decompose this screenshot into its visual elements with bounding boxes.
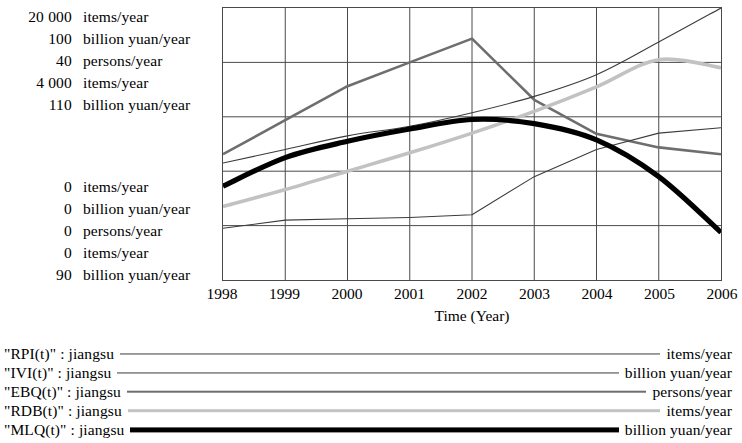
y-axis-scale-row: 0 items/year xyxy=(0,176,212,198)
legend-swatch-track xyxy=(128,401,661,420)
chart-legend: "RPI(t)" : jiangsu items/year "IVI(t)" :… xyxy=(4,344,732,439)
x-axis-tick-2002: 2002 xyxy=(442,283,502,305)
y-axis-unit-label: persons/year xyxy=(72,220,163,242)
legend-swatch-track xyxy=(127,382,647,401)
legend-unit: items/year xyxy=(666,401,732,420)
legend-color-swatch-ivi xyxy=(117,372,618,373)
y-axis-scale-row: 4 000 items/year xyxy=(0,72,212,94)
y-axis-max-value: 20 000 xyxy=(0,6,72,28)
y-axis-max-value: 110 xyxy=(0,94,72,116)
x-axis-tick-2003: 2003 xyxy=(505,283,565,305)
x-axis-tick-2004: 2004 xyxy=(567,283,627,305)
legend-label: "MLQ(t)" : jiangsu xyxy=(4,420,124,439)
y-axis-unit-label: items/year xyxy=(72,176,149,198)
legend-label: "RPI(t)" : jiangsu xyxy=(4,344,114,363)
y-axis-min-value: 0 xyxy=(0,198,72,220)
y-axis-scale-row: 100 billion yuan/year xyxy=(0,28,212,50)
y-axis-unit-label: billion yuan/year xyxy=(72,28,190,50)
y-axis-unit-label: billion yuan/year xyxy=(72,264,190,286)
y-axis-scale-row: 110 billion yuan/year xyxy=(0,94,212,116)
y-axis-max-value: 100 xyxy=(0,28,72,50)
chart-plot-area xyxy=(222,7,722,281)
y-axis-scale-row: 40 persons/year xyxy=(0,50,212,72)
legend-swatch-track xyxy=(120,344,660,363)
y-axis-scale-row: 20 000 items/year xyxy=(0,6,212,28)
y-axis-unit-label: items/year xyxy=(72,72,149,94)
legend-item-ebq[interactable]: "EBQ(t)" : jiangsu persons/year xyxy=(4,382,732,401)
legend-item-mlq[interactable]: "MLQ(t)" : jiangsu billion yuan/year xyxy=(4,420,732,439)
legend-unit: billion yuan/year xyxy=(625,363,732,382)
legend-item-ivi[interactable]: "IVI(t)" : jiangsu billion yuan/year xyxy=(4,363,732,382)
legend-unit: billion yuan/year xyxy=(625,420,732,439)
legend-color-swatch-mlq xyxy=(130,427,618,432)
y-axis-unit-label: persons/year xyxy=(72,50,163,72)
x-axis-tick-2006: 2006 xyxy=(692,283,742,305)
legend-label: "IVI(t)" : jiangsu xyxy=(4,363,111,382)
y-axis-min-value: 0 xyxy=(0,220,72,242)
y-axis-scale-min-column: 0 items/year 0 billion yuan/year 0 perso… xyxy=(0,176,212,286)
y-axis-min-value: 90 xyxy=(0,264,72,286)
y-axis-unit-label: items/year xyxy=(72,242,149,264)
x-axis-tick-labels: 199819992000200120022003200420052006 xyxy=(222,283,722,305)
legend-unit: persons/year xyxy=(652,382,732,401)
y-axis-scale-max-column: 20 000 items/year 100 billion yuan/year … xyxy=(0,6,212,116)
legend-color-swatch-rdb xyxy=(128,409,661,413)
y-axis-min-value: 0 xyxy=(0,176,72,198)
legend-swatch-track xyxy=(130,420,618,439)
x-axis-tick-1998: 1998 xyxy=(192,283,252,305)
legend-label: "EBQ(t)" : jiangsu xyxy=(4,382,121,401)
x-axis-tick-2005: 2005 xyxy=(630,283,690,305)
y-axis-unit-label: items/year xyxy=(72,6,149,28)
y-axis-scale-row: 0 items/year xyxy=(0,242,212,264)
legend-swatch-track xyxy=(117,363,618,382)
y-axis-scale-row: 0 persons/year xyxy=(0,220,212,242)
y-axis-max-value: 4 000 xyxy=(0,72,72,94)
y-axis-max-value: 40 xyxy=(0,50,72,72)
legend-item-rdb[interactable]: "RDB(t)" : jiangsu items/year xyxy=(4,401,732,420)
y-axis-scale-row: 90 billion yuan/year xyxy=(0,264,212,286)
legend-color-swatch-ebq xyxy=(127,390,647,393)
legend-color-swatch-rpi xyxy=(120,353,660,354)
legend-unit: items/year xyxy=(666,344,732,363)
y-axis-unit-label: billion yuan/year xyxy=(72,198,190,220)
legend-item-rpi[interactable]: "RPI(t)" : jiangsu items/year xyxy=(4,344,732,363)
x-axis-tick-2000: 2000 xyxy=(317,283,377,305)
legend-label: "RDB(t)" : jiangsu xyxy=(4,401,122,420)
y-axis-min-value: 0 xyxy=(0,242,72,264)
y-axis-unit-label: billion yuan/year xyxy=(72,94,190,116)
x-axis-tick-1999: 1999 xyxy=(255,283,315,305)
x-axis-title: Time (Year) xyxy=(222,307,722,325)
x-axis-tick-2001: 2001 xyxy=(380,283,440,305)
chart-canvas xyxy=(223,8,721,280)
y-axis-scale-row: 0 billion yuan/year xyxy=(0,198,212,220)
